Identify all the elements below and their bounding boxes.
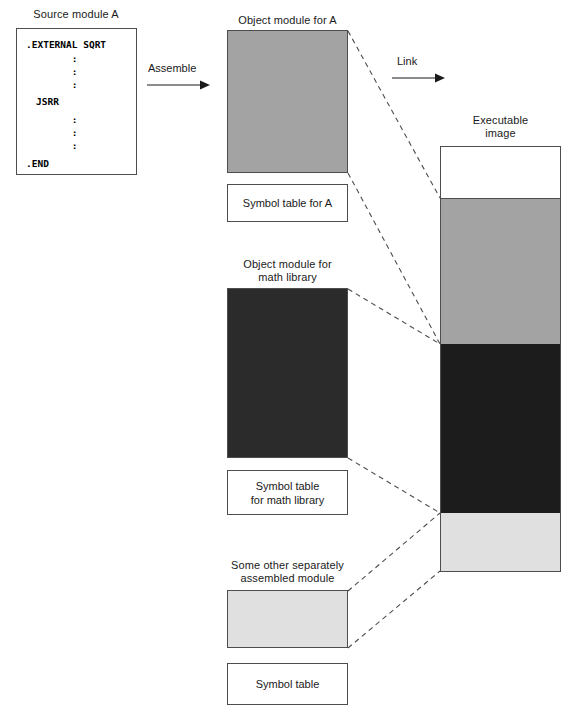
object-module-math-box <box>227 288 348 458</box>
executable-segment-blank <box>441 147 560 198</box>
source-code-line-5: : <box>26 113 77 126</box>
source-code-line-7: : <box>26 139 77 152</box>
source-code-line-3: : <box>26 78 77 91</box>
other-module-caption: Some other separately assembled module <box>222 559 353 585</box>
symbol-table-a-box: Symbol table for A <box>227 184 348 222</box>
link-arrow-label: Link <box>397 55 417 67</box>
symbol-table-math-box: Symbol table for math library <box>227 470 348 515</box>
symbol-table-other-box: Symbol table <box>227 663 348 705</box>
source-module-caption: Source module A <box>16 8 136 21</box>
source-code-line-8: .END <box>26 157 49 170</box>
executable-segment-other-module <box>441 513 560 571</box>
source-code-line-2: : <box>26 65 77 78</box>
object-module-a-box <box>227 30 348 173</box>
source-code-line-4: JSRR <box>36 95 59 108</box>
executable-image-caption: Executable image <box>440 114 561 140</box>
assemble-arrow-icon <box>147 81 210 90</box>
connector-math-library <box>348 289 440 513</box>
source-code-line-1: : <box>26 52 77 65</box>
diagram-canvas: Source module A .EXTERNAL SQRT : : : JSR… <box>0 0 572 717</box>
source-code-line-6: : <box>26 126 77 139</box>
source-code-line-0: .EXTERNAL SQRT <box>26 38 106 51</box>
other-module-box <box>227 590 348 648</box>
symbol-table-other-label: Symbol table <box>228 677 347 691</box>
connector-module-a <box>348 31 440 344</box>
executable-segment-module-a <box>441 198 560 344</box>
connector-other-module <box>348 513 440 648</box>
symbol-table-a-label: Symbol table for A <box>228 196 347 210</box>
assemble-arrow-label: Assemble <box>148 62 196 74</box>
object-module-a-caption: Object module for A <box>227 14 348 27</box>
link-arrow-icon <box>392 74 445 83</box>
object-module-math-caption: Object module for math library <box>227 258 348 284</box>
executable-segment-math-library <box>441 344 560 513</box>
symbol-table-math-label: Symbol table for math library <box>228 479 347 507</box>
